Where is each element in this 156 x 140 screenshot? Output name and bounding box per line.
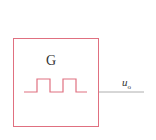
pulse-waveform-icon <box>0 0 156 140</box>
output-label: uo <box>122 76 131 91</box>
